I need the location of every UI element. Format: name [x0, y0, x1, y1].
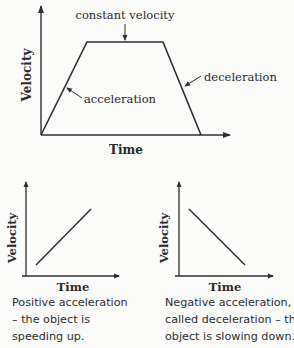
- main-x-label: Time: [109, 143, 143, 157]
- caption-line: speeding up.: [12, 328, 128, 345]
- positive-acceleration-caption: Positive acceleration – the object is sp…: [12, 294, 128, 345]
- negative-acceleration-caption: Negative acceleration, called decelerati…: [165, 294, 294, 345]
- positive-slope-line: [36, 209, 91, 265]
- left-x-label: Time: [57, 280, 89, 294]
- caption-line: – the object is: [12, 311, 128, 328]
- acceleration-label: acceleration: [84, 92, 157, 106]
- caption-line: Positive acceleration: [12, 294, 128, 311]
- caption-line: Negative acceleration,: [165, 294, 294, 311]
- left-y-label: Velocity: [5, 212, 19, 264]
- main-y-label: Velocity: [20, 48, 34, 103]
- constant-velocity-label: constant velocity: [76, 8, 175, 22]
- negative-acceleration-chart: Velocity Time: [157, 182, 273, 294]
- velocity-trapezoid-line: [41, 42, 201, 135]
- right-x-label: Time: [209, 280, 241, 294]
- deceleration-label: deceleration: [204, 70, 277, 84]
- main-chart: Velocity Time constant velocity accelera…: [20, 6, 277, 157]
- acceleration-arrow-icon: [67, 88, 82, 98]
- caption-line: object is slowing down.: [165, 328, 294, 345]
- caption-line: called deceleration – the: [165, 311, 294, 328]
- negative-slope-line: [189, 209, 245, 265]
- deceleration-arrow-icon: [185, 76, 201, 86]
- right-y-label: Velocity: [157, 212, 171, 264]
- positive-acceleration-chart: Velocity Time: [5, 182, 119, 294]
